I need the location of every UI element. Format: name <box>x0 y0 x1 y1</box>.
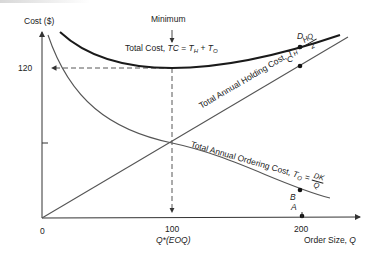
point-b-label: B <box>290 193 296 202</box>
x-tick-200-label: 200 <box>294 225 308 234</box>
eoq-chart <box>0 0 388 258</box>
x-tick-100-label: 100 <box>165 225 179 234</box>
y-tick-120: 120 <box>18 64 32 73</box>
eoq-label: Q*(EOQ) <box>156 236 190 245</box>
point-a-label: A <box>291 203 297 212</box>
x-axis-title: Order Size, Q <box>304 236 356 245</box>
point-c-dot <box>298 64 303 69</box>
y-axis-title: Cost ($) <box>24 17 54 26</box>
total-cost-label: Total Cost, TC = TH + TO <box>125 44 218 54</box>
x-axis <box>42 217 360 218</box>
origin-label: 0 <box>40 227 45 236</box>
minimum-label: Minimum <box>151 15 185 24</box>
point-b-dot <box>298 188 303 193</box>
